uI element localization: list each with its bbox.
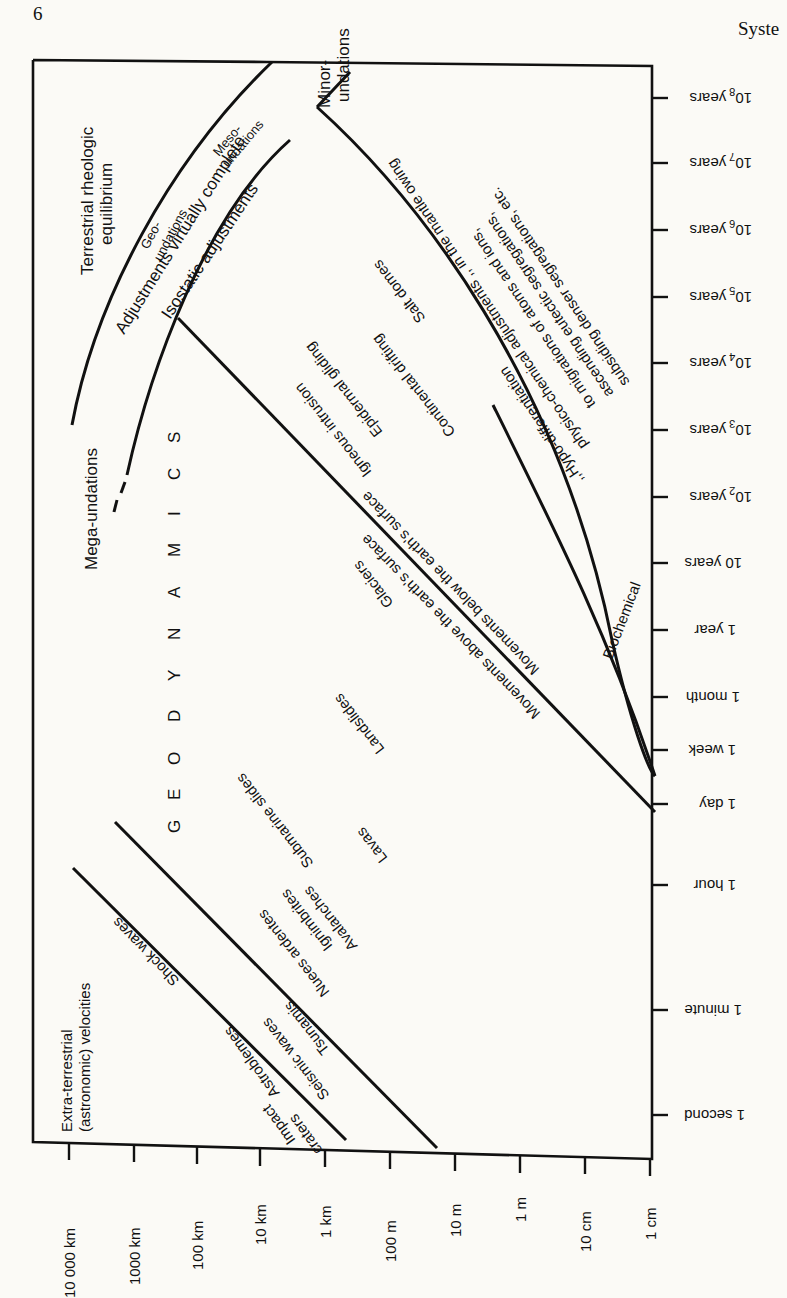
title-letter-a: A xyxy=(165,586,184,598)
label-biochemical: Biochemical xyxy=(599,579,644,661)
upper-labels: Terrestrial rheologic equilibrium Mega-u… xyxy=(78,28,353,570)
tick-label-10000km: 10 000 km xyxy=(61,1228,78,1298)
lower-labels: Submarine slides Avalanches Ignimbrites … xyxy=(58,770,360,1158)
title-letter-d: D xyxy=(165,710,184,722)
title-letter-e: E xyxy=(165,789,184,800)
label-shock-waves: Shock waves xyxy=(109,914,183,989)
label-salt-domes: Salt domes xyxy=(369,257,429,327)
title-letter-y: Y xyxy=(165,670,184,681)
tick-label-1m: 1 m xyxy=(512,1197,529,1222)
tick-label-1e8-years: 108years xyxy=(690,86,753,107)
label-terrestrial-rheologic: Terrestrial rheologic xyxy=(78,126,97,275)
label-submarine-slides: Submarine slides xyxy=(232,770,316,871)
label-epidermal-gliding: Epidermal gliding xyxy=(301,339,385,440)
tick-label-1-minute: 1 minute xyxy=(684,1002,742,1019)
label-equilibrium: equilibrium xyxy=(97,163,116,245)
label-igneous-intrusion: Igneous intrusion xyxy=(291,380,375,480)
tick-label-1-week: 1 week xyxy=(688,742,736,759)
label-lavas: Lavas xyxy=(352,825,390,867)
tick-label-1e3-years: 103years xyxy=(690,418,753,439)
title-letter-n: N xyxy=(165,628,184,640)
tick-label-1cm: 1 cm xyxy=(642,1207,659,1240)
tick-label-10cm: 10 cm xyxy=(577,1211,594,1252)
space-axis-ticks xyxy=(69,1143,650,1176)
tick-label-1e6-years: 106years xyxy=(690,218,753,239)
tick-label-1-day: 1 day xyxy=(699,796,736,813)
tick-label-1-hour: 1 hour xyxy=(693,877,736,894)
label-movements-above: Movements above the earth's surface xyxy=(357,531,543,722)
label-minor: Minor- xyxy=(315,60,334,108)
tick-label-1km: 1 km xyxy=(317,1205,334,1238)
arc-labels: Adjustments virtually complete Geo- unda… xyxy=(111,117,267,337)
geodynamics-figure: 108years 107years 106years 105years 104y… xyxy=(0,0,787,1298)
title-letter-i: I xyxy=(165,511,184,516)
tick-label-10-years: 10 years xyxy=(684,555,742,572)
title-letter-g: G xyxy=(165,820,184,833)
label-minor-undations: undations xyxy=(334,28,353,102)
tick-label-100km: 100 km xyxy=(189,1221,206,1270)
tick-label-1e7-years: 107years xyxy=(690,151,753,172)
title-letter-s: S xyxy=(165,432,184,443)
label-mega-undations: Mega-undations xyxy=(82,448,101,570)
tick-label-1e5-years: 105years xyxy=(690,285,753,306)
tick-label-10m: 10 m xyxy=(447,1204,464,1237)
tick-label-1000km: 1000 km xyxy=(126,1227,143,1285)
tick-label-1e4-years: 104years xyxy=(690,351,753,372)
title-letter-m: M xyxy=(165,543,184,557)
tick-label-1-year: 1 year xyxy=(694,622,736,639)
figure-frame xyxy=(33,60,652,1159)
time-axis-ticks xyxy=(652,98,668,1115)
title-letter-c: C xyxy=(165,468,184,480)
tick-label-100m: 100 m xyxy=(382,1220,399,1262)
label-movements-below: Movements below the earth's surface xyxy=(358,489,542,679)
tick-label-1-month: 1 month xyxy=(686,689,740,706)
tick-label-1-second: 1 second xyxy=(684,1107,745,1124)
tick-label-10km: 10 km xyxy=(252,1204,269,1245)
label-astronomic-velocities: (astronomic) velocities xyxy=(76,983,93,1132)
time-axis-labels: 108years 107years 106years 105years 104y… xyxy=(684,86,752,1124)
space-axis-labels: 10 000 km 1000 km 100 km 10 km 1 km 100 … xyxy=(61,1197,659,1298)
label-extra-terrestrial: Extra-terrestrial xyxy=(58,1029,75,1132)
title-letter-o: O xyxy=(165,752,184,765)
tick-label-1e2-years: 102years xyxy=(690,485,753,506)
geodynamics-title: G E O D Y N A M I C S xyxy=(165,432,184,833)
label-landslides: Landslides xyxy=(330,691,388,758)
label-continental-drifting: Continental drifting xyxy=(368,332,458,441)
